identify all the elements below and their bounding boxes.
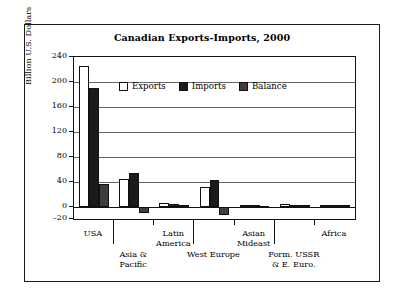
legend-item-imports: Imports <box>179 81 226 91</box>
bar-exports <box>280 204 290 206</box>
x-category-label-line: Asian <box>209 228 297 238</box>
bar-group <box>74 57 114 219</box>
y-axis-title: Billion U.S. Dollars <box>23 7 33 85</box>
y-tick-label: 40 <box>33 177 67 185</box>
plot-wrapper: Billion U.S. Dollars 24020016012080400–2… <box>25 25 379 281</box>
black-square-icon <box>179 82 188 91</box>
y-tick-label: 160 <box>33 102 67 110</box>
bar-exports <box>159 203 169 207</box>
x-tick-mark <box>234 220 235 225</box>
bar-exports <box>79 66 89 206</box>
legend-item-balance: Balance <box>239 81 287 91</box>
chart-legend: ExportsImportsBalance <box>119 81 287 91</box>
bar-balance <box>340 205 350 207</box>
bar-exports <box>119 179 129 207</box>
x-category-label-line: Latin <box>129 228 217 238</box>
bar-exports <box>320 205 330 207</box>
bar-group <box>315 57 355 219</box>
bar-balance <box>179 205 189 207</box>
x-tick-mark <box>153 220 154 225</box>
bar-imports <box>89 88 99 206</box>
x-tick-mark <box>314 220 315 225</box>
x-category-label: West Europe <box>169 249 257 259</box>
x-category-label: AsianMideast <box>209 228 297 248</box>
x-axis: USAAsia &PacificLatinAmericaWest EuropeA… <box>73 220 356 280</box>
legend-label: Exports <box>132 81 166 91</box>
gray-square-icon <box>239 82 248 91</box>
x-category-label: LatinAmerica <box>129 228 217 248</box>
bar-balance <box>139 207 149 213</box>
bar-imports <box>129 173 139 207</box>
x-category-label-line: West Europe <box>169 249 257 259</box>
x-category-label-line: Pacific <box>89 259 177 269</box>
x-category-label-line: Africa <box>290 228 378 238</box>
bar-balance <box>300 205 310 207</box>
y-tick-label: –20 <box>33 214 67 222</box>
y-tick-label: 0 <box>33 202 67 210</box>
y-tick-label: 240 <box>33 52 67 60</box>
white-square-icon <box>119 82 128 91</box>
x-category-label: Form. USSR& E. Euro. <box>250 249 338 269</box>
bar-exports <box>200 187 210 207</box>
bar-balance <box>99 184 109 206</box>
bar-imports <box>290 205 300 207</box>
bar-balance <box>219 207 229 215</box>
x-category-label-line: Form. USSR <box>250 249 338 259</box>
figure-frame: Canadian Exports-Imports, 2000 Billion U… <box>24 24 380 282</box>
y-tick-label: 200 <box>33 77 67 85</box>
x-category-label-line: & E. Euro. <box>250 259 338 269</box>
legend-label: Balance <box>252 81 287 91</box>
y-tick-label: 120 <box>33 127 67 135</box>
x-category-label: USA <box>49 228 137 238</box>
bar-exports <box>240 205 250 207</box>
bar-imports <box>330 205 340 207</box>
x-category-label-line: USA <box>49 228 137 238</box>
bar-imports <box>169 204 179 206</box>
bar-balance <box>260 206 270 208</box>
legend-label: Imports <box>192 81 226 91</box>
x-category-label-line: Asia & <box>89 249 177 259</box>
bar-imports <box>210 180 220 207</box>
x-category-label: Asia &Pacific <box>89 249 177 269</box>
bar-imports <box>250 205 260 207</box>
legend-item-exports: Exports <box>119 81 166 91</box>
x-category-label-line: Mideast <box>209 238 297 248</box>
x-category-label-line: America <box>129 238 217 248</box>
y-tick-label: 80 <box>33 152 67 160</box>
x-category-label: Africa <box>290 228 378 238</box>
